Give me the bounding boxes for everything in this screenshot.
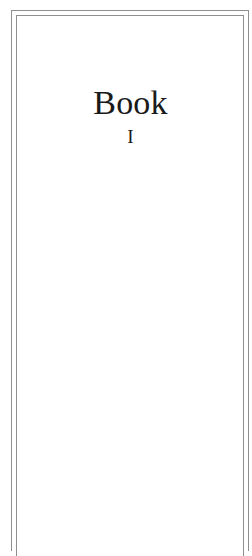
book-title: Book	[12, 84, 249, 122]
book-number: I	[12, 126, 249, 148]
